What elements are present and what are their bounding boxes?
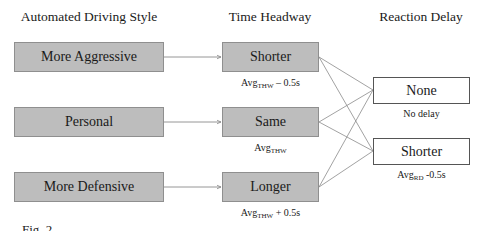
style-label: More Defensive [44, 179, 135, 195]
delay-box-none: None [373, 77, 470, 104]
header-time-headway: Time Headway [210, 9, 330, 25]
delay-box-shorter: Shorter [373, 138, 470, 165]
style-box-more-aggressive: More Aggressive [14, 42, 164, 72]
delay-label: None [406, 83, 436, 99]
headway-formula-shorter: AvgTHW – 0.5s [222, 77, 319, 90]
delay-note-none: No delay [373, 108, 470, 119]
style-label: Personal [65, 114, 113, 130]
style-box-more-defensive: More Defensive [14, 172, 164, 202]
style-box-personal: Personal [14, 107, 164, 137]
headway-label: Same [255, 114, 286, 130]
style-label: More Aggressive [41, 49, 137, 65]
headway-formula-longer: AvgTHW + 0.5s [222, 207, 319, 220]
headway-label: Shorter [250, 49, 291, 65]
headway-box-same: Same [222, 107, 319, 137]
headway-label: Longer [250, 179, 290, 195]
headway-box-longer: Longer [222, 172, 319, 202]
header-reaction-delay: Reaction Delay [366, 9, 476, 25]
delay-label: Shorter [401, 144, 442, 160]
figure-caption: Fig. 2. [22, 222, 56, 231]
headway-formula-same: AvgTHW [222, 142, 319, 155]
delay-formula-shorter: AvgRD -0.5s [373, 169, 470, 182]
headway-box-shorter: Shorter [222, 42, 319, 72]
header-driving-style: Automated Driving Style [14, 9, 164, 25]
